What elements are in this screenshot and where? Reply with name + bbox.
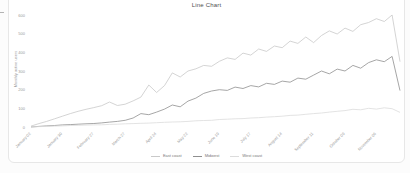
- x-tick-label: October 09: [328, 131, 346, 149]
- line-chart-plot: 0100200300400500600January 02January 30F…: [9, 0, 404, 162]
- y-tick-label: 200: [18, 87, 25, 92]
- legend-label: East coast: [163, 154, 182, 158]
- x-tick-label: September 11: [293, 131, 315, 153]
- x-tick-label: February 27: [76, 131, 95, 150]
- legend-label: Midwest: [205, 154, 220, 158]
- line-chart-card: Line Chart Monthly active users 01002003…: [8, 0, 405, 163]
- x-tick-label: June 19: [207, 131, 221, 145]
- legend-item-west-coast[interactable]: West coast: [230, 154, 262, 158]
- y-tick-label: 100: [18, 106, 25, 111]
- x-tick-label: April 24: [144, 131, 158, 145]
- legend-label: West coast: [242, 154, 262, 158]
- text-fragment-dash: [0, 12, 4, 13]
- x-tick-label: November 06: [357, 131, 378, 152]
- x-tick-label: January 02: [14, 131, 32, 149]
- x-tick-label: March 27: [111, 131, 127, 147]
- legend-swatch-east-coast: [151, 156, 160, 157]
- legend-swatch-midwest: [193, 156, 202, 157]
- y-tick-label: 300: [18, 69, 25, 74]
- series-line-midwest: [31, 56, 400, 127]
- y-tick-label: 0: [23, 125, 26, 130]
- chart-legend: East coastMidwestWest coast: [9, 154, 404, 158]
- legend-swatch-west-coast: [230, 156, 239, 157]
- y-tick-label: 600: [18, 13, 25, 18]
- legend-item-east-coast[interactable]: East coast: [151, 154, 182, 158]
- y-tick-label: 500: [18, 31, 25, 36]
- x-tick-label: January 30: [46, 131, 64, 149]
- legend-item-midwest[interactable]: Midwest: [193, 154, 220, 158]
- x-tick-label: July 17: [239, 131, 252, 144]
- y-tick-label: 400: [18, 50, 25, 55]
- x-tick-label: May 22: [176, 131, 189, 144]
- x-tick-label: August 14: [267, 131, 284, 148]
